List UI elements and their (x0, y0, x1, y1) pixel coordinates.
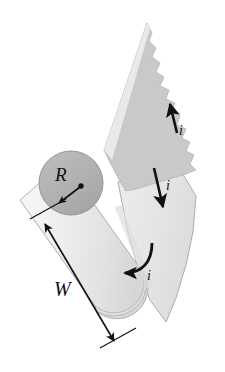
torn-sheet-upper (104, 23, 196, 191)
figure-canvas: R W i i i (0, 0, 225, 372)
width-tick-bottom (100, 328, 136, 348)
current-label-top: i (179, 123, 183, 138)
current-label-middle: i (166, 178, 170, 193)
physics-figure: R W i i i (0, 0, 225, 372)
current-label-cylinder: i (147, 268, 151, 283)
radius-label: R (54, 164, 67, 185)
cylinder-end-cap (39, 151, 103, 215)
width-label: W (54, 278, 73, 300)
